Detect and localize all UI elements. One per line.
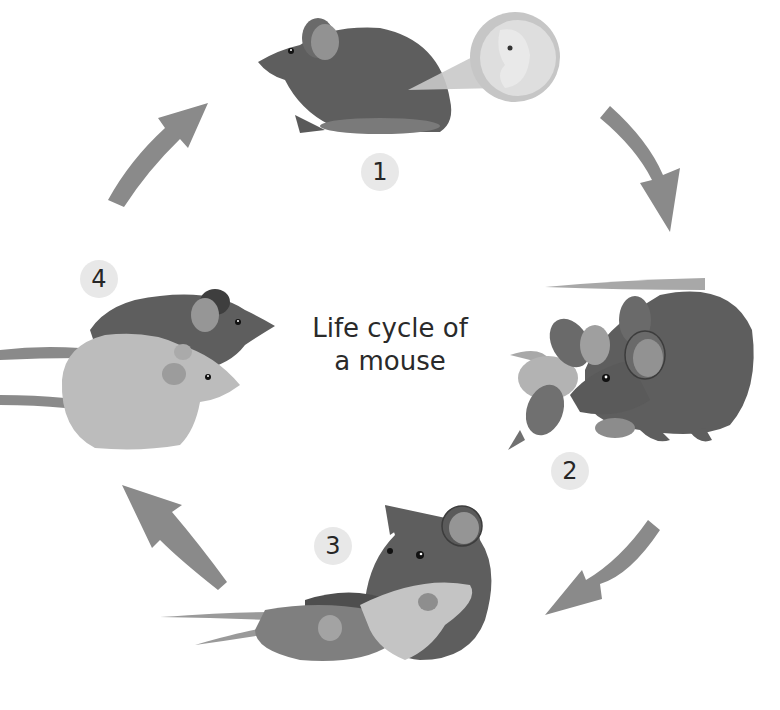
arrow-stage4-to-1 bbox=[108, 103, 208, 207]
mouse-life-cycle-diagram: 1 2 3 4 Life cycle of a mouse bbox=[0, 0, 780, 710]
stage-2-mother-with-pups bbox=[508, 278, 754, 450]
stage-1-pregnant-mouse bbox=[258, 12, 560, 134]
diagram-title: Life cycle of a mouse bbox=[300, 312, 480, 378]
stage-4-adult-mice bbox=[0, 289, 275, 449]
arrow-stage3-to-4 bbox=[122, 485, 227, 590]
stage-2-number-badge: 2 bbox=[551, 452, 589, 490]
stage-1-number-badge: 1 bbox=[361, 153, 399, 191]
stage-4-number-badge: 4 bbox=[80, 260, 118, 298]
stage-3-number-badge: 3 bbox=[314, 527, 352, 565]
diagram-title-line-1: Life cycle of bbox=[300, 312, 480, 345]
arrow-stage2-to-3 bbox=[545, 520, 660, 615]
arrow-stage1-to-2 bbox=[600, 106, 680, 232]
diagram-title-line-2: a mouse bbox=[300, 345, 480, 378]
